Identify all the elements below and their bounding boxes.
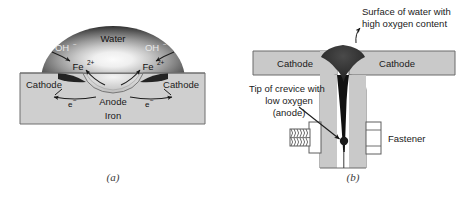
fastener-shoulder-left <box>309 122 321 153</box>
corrosion-figure-svg: Water OH − OH − Fe 2+ Fe 2+ Cathode Cath… <box>0 0 474 203</box>
fe-right-sup: 2+ <box>157 59 165 66</box>
water-note-leader <box>356 28 360 43</box>
anode-label: Anode <box>99 96 126 107</box>
anode-tip-dot <box>340 137 348 145</box>
crevice-note-line3: (anode) <box>273 107 306 118</box>
oh-left-sup: − <box>73 41 77 48</box>
cathode-right-label: Cathode <box>163 79 199 90</box>
water-label: Water <box>101 33 126 44</box>
fe-right-text: Fe <box>142 61 153 72</box>
oh-right-text: OH <box>145 42 159 53</box>
fe-left-sup: 2+ <box>87 59 95 66</box>
fastener-head <box>366 122 381 154</box>
cathode-left-label: Cathode <box>26 79 62 90</box>
cathode-right-label-b: Cathode <box>379 58 415 69</box>
caption-a: (a) <box>107 171 120 184</box>
panel-a: Water OH − OH − Fe 2+ Fe 2+ Cathode Cath… <box>20 26 205 184</box>
oh-left-text: OH <box>55 42 69 53</box>
cathode-left-label-b: Cathode <box>277 58 313 69</box>
fastener-label: Fastener <box>388 133 426 144</box>
water-note-line1: Surface of water with <box>362 6 451 17</box>
electron-right-sup: − <box>150 97 154 104</box>
fe-left-text: Fe <box>72 61 83 72</box>
oh-right-sup: − <box>163 41 167 48</box>
panel-b: Surface of water with high oxygen conten… <box>249 6 455 184</box>
iron-label: Iron <box>105 110 121 121</box>
water-note-line2: high oxygen content <box>362 18 447 29</box>
crevice-note-line2: low oxygen <box>265 95 313 106</box>
caption-b: (b) <box>347 171 360 184</box>
stem-right-fill <box>349 75 366 168</box>
crevice-note-line1: Tip of crevice with <box>249 83 325 94</box>
electron-left-sup: − <box>73 97 77 104</box>
figure-container: Water OH − OH − Fe 2+ Fe 2+ Cathode Cath… <box>0 0 474 203</box>
